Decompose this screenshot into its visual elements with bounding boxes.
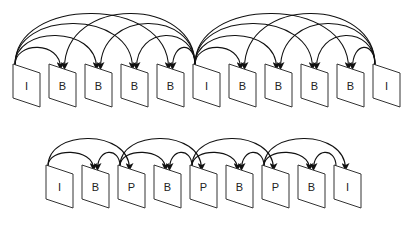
frame-label: B xyxy=(59,80,66,92)
frame-i: I xyxy=(373,64,400,107)
frame-label: I xyxy=(346,181,349,193)
frame-label: B xyxy=(275,80,282,92)
frame-b: B xyxy=(157,64,184,107)
frame-b: B xyxy=(154,165,181,208)
frame-b: B xyxy=(229,64,256,107)
frame-b: B xyxy=(85,64,112,107)
frame-label: I xyxy=(58,181,61,193)
frame-p: P xyxy=(118,165,145,208)
reference-arrow xyxy=(245,13,376,68)
frame-label: I xyxy=(385,80,388,92)
frame-label: I xyxy=(25,80,28,92)
frame-b: B xyxy=(301,64,328,107)
frame-label: P xyxy=(200,181,207,193)
reference-arrow xyxy=(195,35,277,68)
frame-label: B xyxy=(308,181,315,193)
frame-p: P xyxy=(262,165,289,208)
frame-label: B xyxy=(347,80,354,92)
frame-label: P xyxy=(272,181,279,193)
reference-arrow xyxy=(195,13,349,68)
frame-label: B xyxy=(164,181,171,193)
frame-b: B xyxy=(49,64,76,107)
frame-i: I xyxy=(13,64,40,107)
frame-label: B xyxy=(239,80,246,92)
reference-arrow xyxy=(98,152,121,169)
frame-i: I xyxy=(193,64,220,107)
reference-arrow xyxy=(314,152,337,169)
reference-arrow xyxy=(170,152,193,169)
frame-i: I xyxy=(334,165,361,208)
frame-label: B xyxy=(92,181,99,193)
frame-b: B xyxy=(121,64,148,107)
frame-label: B xyxy=(95,80,102,92)
frame-label: B xyxy=(311,80,318,92)
reference-arrow xyxy=(195,47,241,68)
reference-arrow xyxy=(15,47,61,68)
frame-b: B xyxy=(298,165,325,208)
reference-arrow xyxy=(15,13,169,68)
reference-arrow xyxy=(242,152,265,169)
hierarchical-b-row: IBBBBIBBBBI xyxy=(13,13,400,107)
frame-label: B xyxy=(236,181,243,193)
frame-b: B xyxy=(265,64,292,107)
frame-b: B xyxy=(82,165,109,208)
frame-i: I xyxy=(46,165,73,208)
frame-label: I xyxy=(205,80,208,92)
frame-label: B xyxy=(167,80,174,92)
frame-label: P xyxy=(128,181,135,193)
gop-diagram: IBBBBIBBBBI IBPBPBPBI xyxy=(0,0,410,225)
frame-p: P xyxy=(190,165,217,208)
frame-b: B xyxy=(226,165,253,208)
frame-label: B xyxy=(131,80,138,92)
frame-b: B xyxy=(337,64,364,107)
reference-arrow xyxy=(15,35,97,68)
reference-arrow xyxy=(65,13,196,68)
ibp-row: IBPBPBPBI xyxy=(46,138,361,208)
